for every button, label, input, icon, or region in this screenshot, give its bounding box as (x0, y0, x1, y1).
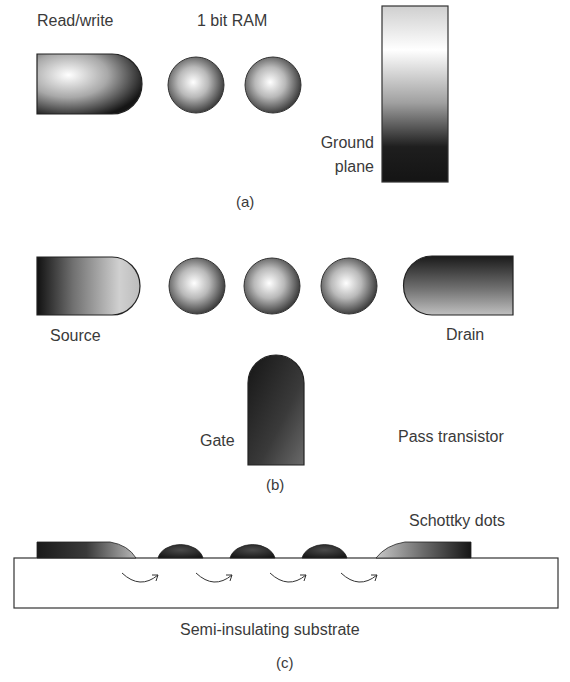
substrate (14, 558, 558, 608)
schottky-source-contact (37, 542, 136, 558)
schottky-dot-3 (302, 545, 347, 558)
substrate-label: Semi-insulating substrate (180, 621, 360, 639)
source-label: Source (50, 327, 101, 345)
caption-c: (c) (276, 654, 294, 671)
transistor-dot-1 (169, 258, 225, 314)
ram-label: 1 bit RAM (197, 12, 267, 30)
transistor-dot-2 (244, 258, 300, 314)
schottky-dots-label: Schottky dots (409, 512, 505, 530)
ground-plane (382, 6, 448, 182)
schottky-dot-2 (230, 545, 275, 558)
gate-electrode (248, 355, 304, 465)
schottky-drain-contact (376, 542, 471, 558)
gate-label: Gate (200, 432, 235, 450)
drain-label: Drain (446, 326, 484, 344)
schottky-dot-1 (158, 545, 203, 558)
ground-plane-label-line2: plane (306, 158, 374, 176)
ram-dot-2 (245, 57, 301, 113)
read-write-label: Read/write (37, 12, 113, 30)
ram-dot-1 (168, 57, 224, 113)
read-write-electrode (37, 54, 142, 114)
caption-b: (b) (266, 476, 284, 493)
transistor-dot-3 (321, 258, 377, 314)
source-electrode (37, 257, 140, 315)
drain-electrode (404, 256, 513, 315)
ground-plane-label-line1: Ground (306, 134, 374, 152)
caption-a: (a) (236, 193, 254, 210)
pass-transistor-title: Pass transistor (398, 428, 504, 446)
